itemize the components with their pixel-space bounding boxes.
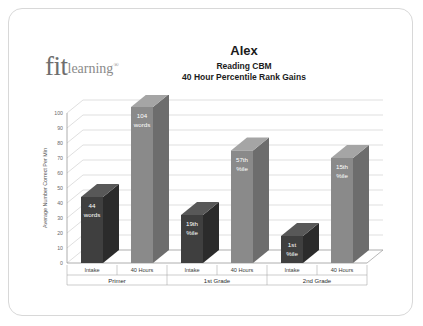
- floor-right-edge: [367, 250, 383, 263]
- page-title: Alex: [149, 43, 339, 58]
- bar-unit-label: %ile: [186, 229, 198, 236]
- bar-value-label: 44: [89, 202, 96, 209]
- gridline-depth-60: [67, 160, 83, 173]
- bar-value-label: 1st: [288, 241, 297, 248]
- y-tick-label-40: 40: [57, 200, 63, 206]
- x-tick-label-40-hours-1: 40 Hours: [131, 267, 154, 273]
- gridline-depth-50: [67, 175, 83, 188]
- gridline-depth-90: [67, 115, 83, 128]
- bar-primer-intake: 44words: [81, 184, 119, 263]
- y-tick-label-50: 50: [57, 185, 63, 191]
- bar-unit-label: %ile: [236, 165, 248, 172]
- gridline-depth-30: [67, 205, 83, 218]
- x-group-label-2nd-grade: 2nd Grade: [303, 278, 332, 284]
- gridline-depth-10: [67, 235, 83, 248]
- bar-unit-label: words: [133, 121, 151, 128]
- fit-learning-logo: ··fitlearning®: [45, 51, 155, 83]
- gridline-depth-80: [67, 130, 83, 143]
- gridline-depth-100: [67, 100, 83, 113]
- bar-side-face: [353, 145, 369, 263]
- chart-title-block: Alex Reading CBM 40 Hour Percentile Rank…: [149, 43, 339, 83]
- chart-plot-area: 0102030405060708090100Average Number Cor…: [37, 95, 397, 290]
- bar-2nd-grade-40-hours: 15th%ile: [331, 145, 369, 263]
- x-tick-label-intake-2: Intake: [184, 267, 199, 273]
- x-tick-label-40-hours-5: 40 Hours: [331, 267, 354, 273]
- y-tick-label-80: 80: [57, 140, 63, 146]
- y-axis-title: Average Number Correct Per Min: [42, 148, 48, 228]
- y-tick-label-30: 30: [57, 215, 63, 221]
- bar-primer-40-hours: 104words: [131, 95, 169, 263]
- bar-value-label: 104: [137, 112, 148, 119]
- y-tick-label-70: 70: [57, 155, 63, 161]
- logo-word: learning: [68, 61, 114, 76]
- registered-trademark-icon: ®: [113, 61, 118, 69]
- bar-chart-svg: 0102030405060708090100Average Number Cor…: [37, 95, 397, 290]
- bar-value-label: 57th: [236, 156, 249, 163]
- bar-side-face: [253, 138, 269, 264]
- gridline-depth-20: [67, 220, 83, 233]
- bar-unit-label: words: [83, 211, 101, 218]
- bar-front-face: [131, 107, 153, 263]
- bar-unit-label: %ile: [336, 172, 348, 179]
- gridline-depth-0: [67, 250, 83, 263]
- bar-value-label: 19th: [186, 220, 199, 227]
- chart-card: ··fitlearning® Alex Reading CBM 40 Hour …: [8, 8, 413, 316]
- bar-1st-grade-intake: 19th%ile: [181, 202, 219, 263]
- x-tick-label-intake-0: Intake: [84, 267, 99, 273]
- y-tick-label-90: 90: [57, 125, 63, 131]
- y-tick-label-0: 0: [60, 260, 63, 266]
- gridline-depth-40: [67, 190, 83, 203]
- bar-unit-label: %ile: [286, 250, 298, 257]
- x-tick-label-40-hours-3: 40 Hours: [231, 267, 254, 273]
- x-group-label-1st-grade: 1st Grade: [204, 278, 231, 284]
- y-tick-label-20: 20: [57, 230, 63, 236]
- y-tick-label-60: 60: [57, 170, 63, 176]
- y-tick-label-10: 10: [57, 245, 63, 251]
- gridline-depth-70: [67, 145, 83, 158]
- logo-dots-icon: ··: [51, 53, 58, 62]
- bar-side-face: [103, 184, 119, 263]
- bar-side-face: [153, 95, 169, 263]
- y-tick-label-100: 100: [54, 110, 63, 116]
- x-tick-label-intake-4: Intake: [284, 267, 299, 273]
- bar-2nd-grade-intake: 1st%ile: [281, 223, 319, 263]
- chart-subtitle-line1: Reading CBM: [149, 61, 339, 72]
- x-group-label-primer: Primer: [108, 278, 126, 284]
- bar-value-label: 15th: [336, 163, 349, 170]
- chart-subtitle-line2: 40 Hour Percentile Rank Gains: [149, 72, 339, 83]
- bar-1st-grade-40-hours: 57th%ile: [231, 138, 269, 264]
